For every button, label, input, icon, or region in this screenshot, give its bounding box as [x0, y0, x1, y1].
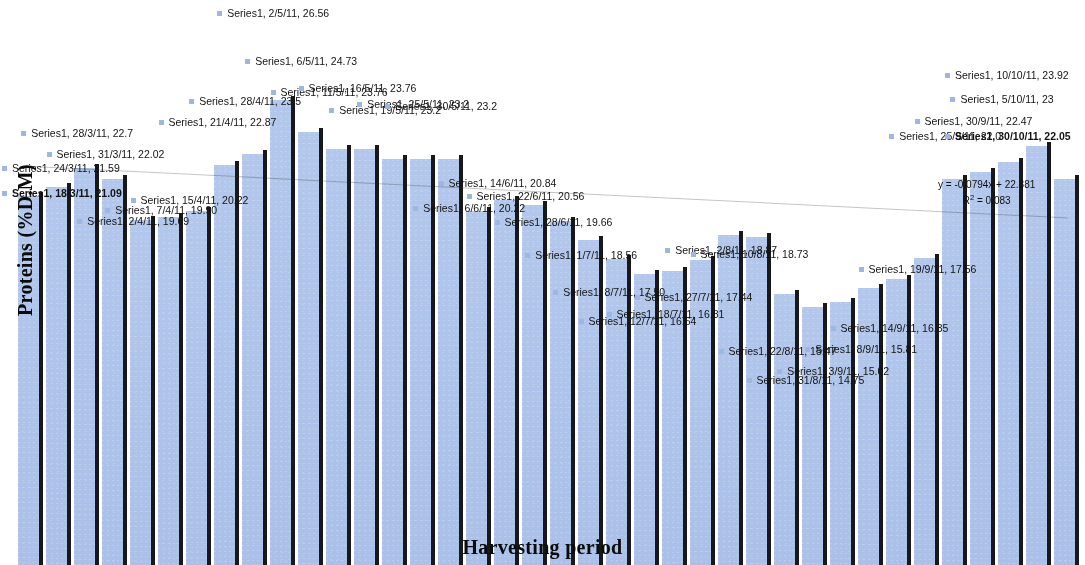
data-label: Series1, 30/10/11, 22.05 [945, 131, 1071, 142]
legend-marker-icon [915, 119, 920, 124]
y-axis-title: Proteins (%D.M) [14, 120, 37, 360]
data-label-text: Series1, 30/10/11, 22.05 [955, 130, 1071, 142]
error-bar [935, 254, 939, 565]
legend-marker-icon [635, 295, 640, 300]
bar [550, 221, 572, 565]
r-squared-symbol: R [963, 195, 970, 206]
legend-marker-icon [889, 134, 894, 139]
data-label: Series1, 1/7/11, 18.56 [525, 250, 637, 261]
bar [242, 154, 264, 565]
bar [466, 211, 488, 565]
legend-marker-icon [495, 220, 500, 225]
data-label-text: Series1, 19/9/11, 17.56 [869, 263, 977, 275]
data-label-text: Series1, 3/9/11, 15.02 [787, 365, 889, 377]
legend-marker-icon [831, 326, 836, 331]
bar [326, 149, 348, 565]
data-label-text: Series1, 14/9/11, 16.35 [841, 322, 949, 334]
plot-area [0, 0, 1085, 565]
legend-marker-icon [525, 253, 530, 258]
legend-marker-icon [579, 319, 584, 324]
bar [606, 259, 628, 565]
legend-marker-icon [553, 290, 558, 295]
legend-marker-icon [245, 59, 250, 64]
error-bar [347, 145, 351, 565]
bar [46, 187, 68, 565]
bar [382, 159, 404, 565]
legend-marker-icon [271, 90, 276, 95]
legend-marker-icon [945, 73, 950, 78]
legend-marker-icon [159, 120, 164, 125]
error-bar [431, 155, 435, 565]
error-bar [291, 96, 295, 565]
bar [1054, 179, 1076, 565]
data-label: Series1, 19/9/11, 17.56 [859, 264, 977, 275]
error-bar [319, 128, 323, 565]
legend-marker-icon [665, 248, 670, 253]
legend-marker-icon [719, 349, 724, 354]
bar [438, 159, 460, 565]
bar [130, 220, 152, 565]
error-bar [851, 298, 855, 565]
data-label: Series1, 18/7/11, 16.81 [607, 309, 725, 320]
bar [494, 200, 516, 565]
data-label-text: Series1, 30/5/11, 23.2 [395, 100, 497, 112]
trendline-r-squared: R2 = 0.083 [938, 191, 1035, 207]
legend-marker-icon [805, 347, 810, 352]
error-bar [1047, 142, 1051, 565]
bar [270, 100, 292, 565]
data-label-text: Series1, 18/7/11, 16.81 [617, 308, 725, 320]
data-label-text: Series1, 21/4/11, 22.87 [169, 116, 277, 128]
legend-marker-icon [945, 134, 950, 139]
legend-marker-icon [189, 99, 194, 104]
bar [998, 162, 1020, 565]
data-label: Series1, 27/7/11, 17.44 [635, 292, 753, 303]
legend-marker-icon [691, 252, 696, 257]
error-bar [487, 207, 491, 565]
data-label: Series1, 8/9/11, 15.81 [805, 344, 917, 355]
data-label: Series1, 2/4/11, 19.69 [77, 216, 189, 227]
protein-harvest-bar-chart: Series1, 18/3/11, 21.09Series1, 24/3/11,… [0, 0, 1085, 565]
r-squared-value: = 0.083 [974, 195, 1010, 206]
data-label: Series1, 2/5/11, 26.56 [217, 8, 329, 19]
data-label-text: Series1, 28/6/11, 19.66 [505, 216, 613, 228]
error-bar [403, 155, 407, 565]
bar [746, 237, 768, 565]
error-bar [39, 192, 43, 565]
data-label: Series1, 21/4/11, 22.87 [159, 117, 277, 128]
error-bar [67, 183, 71, 565]
data-label: Series1, 30/9/11, 22.47 [915, 116, 1033, 127]
bar [718, 235, 740, 565]
error-bar [739, 231, 743, 565]
data-label: Series1, 28/6/11, 19.66 [495, 217, 613, 228]
data-label: Series1, 7/4/11, 19.90 [105, 205, 217, 216]
data-label-text: Series1, 2/5/11, 26.56 [227, 7, 329, 19]
legend-marker-icon [299, 86, 304, 91]
bar [970, 172, 992, 565]
data-label: Series1, 31/3/11, 22.02 [47, 149, 165, 160]
legend-marker-icon [950, 97, 955, 102]
legend-marker-icon [777, 369, 782, 374]
legend-marker-icon [607, 312, 612, 317]
data-label: Series1, 14/6/11, 20.84 [439, 178, 557, 189]
error-bar [823, 303, 827, 565]
data-label: Series1, 6/6/11, 20.22 [413, 203, 525, 214]
data-label: Series1, 10/10/11, 23.92 [945, 70, 1069, 81]
data-label: Series1, 10/8/11, 18.73 [691, 249, 809, 260]
error-bar [1019, 158, 1023, 565]
data-label-text: Series1, 28/3/11, 22.7 [31, 127, 133, 139]
data-label-text: Series1, 30/9/11, 22.47 [925, 115, 1033, 127]
legend-marker-icon [439, 181, 444, 186]
data-label-text: Series1, 5/10/11, 23 [960, 93, 1053, 105]
error-bar [179, 213, 183, 565]
data-label: Series1, 14/9/11, 16.35 [831, 323, 949, 334]
error-bar [767, 233, 771, 565]
data-label: Series1, 28/3/11, 22.7 [21, 128, 133, 139]
error-bar [515, 196, 519, 565]
bar [914, 258, 936, 565]
bar [214, 165, 236, 565]
bar [774, 294, 796, 565]
data-label-text: Series1, 6/6/11, 20.22 [423, 202, 525, 214]
data-label-text: Series1, 10/8/11, 18.73 [701, 248, 809, 260]
data-label: Series1, 5/10/11, 23 [950, 94, 1053, 105]
bar [942, 179, 964, 565]
